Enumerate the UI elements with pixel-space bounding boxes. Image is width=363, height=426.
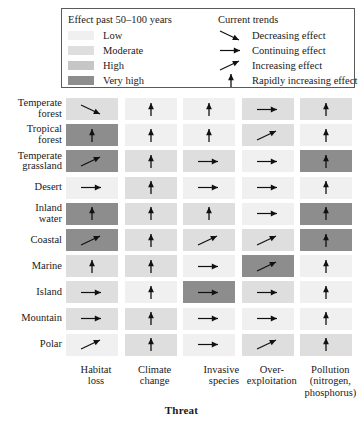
arrow-up-icon (138, 259, 164, 274)
arrow-up-icon (138, 311, 164, 326)
matrix-cell (242, 124, 294, 146)
legend-effect-row: Very high (68, 73, 218, 88)
matrix-row-cells (66, 150, 352, 172)
arrow-up-icon (138, 285, 164, 300)
row-label-line: Marine (0, 261, 62, 272)
matrix-row: Inlandwater (0, 201, 363, 227)
matrix-row-cells (66, 177, 352, 199)
arrow-up-icon (138, 180, 164, 195)
matrix-cell (242, 203, 294, 225)
arrow-up-right-icon (196, 233, 222, 248)
arrow-up-icon (196, 128, 222, 143)
arrow-right-icon (196, 259, 222, 274)
arrow-right-icon (196, 337, 222, 352)
legend-effect-label: Very high (103, 75, 144, 86)
matrix-cell (125, 203, 177, 225)
matrix-cell (66, 308, 118, 330)
arrow-up-icon (313, 311, 339, 326)
row-label-line: Desert (0, 182, 62, 193)
matrix-row-cells (66, 255, 352, 277)
arrow-up-icon (138, 102, 164, 117)
matrix-cell (66, 334, 118, 356)
matrix-cell (125, 334, 177, 356)
column-header-habitat-loss: Habitatloss (70, 364, 122, 398)
matrix-cell (66, 98, 118, 120)
matrix-cell (66, 229, 118, 251)
column-header-climate-change: Climatechange (129, 364, 181, 398)
matrix-cell (125, 255, 177, 277)
matrix-cell (183, 229, 235, 251)
arrow-down-right-icon (218, 29, 244, 42)
arrow-up-right-icon (79, 337, 105, 352)
legend-trends-title: Current trends (218, 14, 354, 26)
arrow-up-icon (138, 128, 164, 143)
arrow-right-icon (196, 180, 222, 195)
matrix-cell (125, 308, 177, 330)
matrix-row: Coastal (0, 227, 363, 253)
arrow-right-icon (196, 285, 222, 300)
column-header-line: species (187, 375, 239, 386)
column-header-line: change (129, 375, 181, 386)
legend-trend-label: Decreasing effect (252, 30, 326, 41)
matrix-cell (242, 98, 294, 120)
matrix-cell (125, 281, 177, 303)
row-label-inland-water: Inlandwater (0, 203, 66, 225)
legend-effect-row: Low (68, 28, 218, 43)
arrow-up-icon (138, 154, 164, 169)
arrow-up-right-icon (255, 233, 281, 248)
arrow-up-icon (313, 128, 339, 143)
matrix-cell (300, 124, 352, 146)
legend-effect-row: Moderate (68, 43, 218, 58)
matrix-cell (125, 229, 177, 251)
matrix-cell (183, 281, 235, 303)
matrix-row: Mountain (0, 306, 363, 332)
arrow-up-icon (79, 128, 105, 143)
matrix-cell (125, 150, 177, 172)
matrix-cell (242, 150, 294, 172)
arrow-right-icon (79, 285, 105, 300)
matrix-row-cells (66, 203, 352, 225)
matrix-cell (183, 334, 235, 356)
legend-trends-column: Current trends Decreasing effectContinui… (218, 14, 354, 88)
arrow-up-icon (218, 74, 244, 87)
matrix-cell (242, 334, 294, 356)
row-label-temperate-grassland: Temperategrassland (0, 151, 66, 173)
matrix-cell (300, 98, 352, 120)
matrix-row: Temperateforest (0, 96, 363, 122)
column-header-line: Habitat (70, 364, 122, 375)
arrow-up-right-icon (79, 233, 105, 248)
row-label-line: Coastal (0, 235, 62, 246)
matrix-row-cells (66, 308, 352, 330)
legend-effect-label: Moderate (103, 45, 143, 56)
matrix-cell (183, 255, 235, 277)
arrow-right-icon (218, 44, 244, 57)
legend-effect-row: High (68, 58, 218, 73)
column-header-over-exploitation: Over-exploitation (246, 364, 298, 398)
column-header-line: Invasive (187, 364, 239, 375)
matrix-row-cells (66, 124, 352, 146)
arrow-up-icon (138, 233, 164, 248)
arrow-right-icon (196, 311, 222, 326)
column-header-pollution-nitrogen-phosphorus-: Pollution(nitrogen,phosphorus) (304, 364, 356, 398)
matrix-row: Polar (0, 332, 363, 358)
column-header-line: Over- (246, 364, 298, 375)
row-label-mountain: Mountain (0, 313, 66, 324)
matrix-row: Temperategrassland (0, 148, 363, 174)
arrow-right-icon (255, 285, 281, 300)
matrix-cell (300, 255, 352, 277)
row-label-temperate-forest: Temperateforest (0, 98, 66, 120)
legend-panel: Effect past 50–100 years LowModerateHigh… (61, 8, 355, 88)
matrix-cell (300, 177, 352, 199)
matrix-cell (242, 177, 294, 199)
arrow-up-icon (79, 259, 105, 274)
legend-trend-label: Increasing effect (252, 60, 322, 71)
legend-trend-row: Decreasing effect (218, 28, 354, 43)
arrow-right-icon (79, 311, 105, 326)
legend-trend-label: Rapidly increasing effect (252, 75, 357, 86)
matrix-cell (300, 281, 352, 303)
matrix-row-cells (66, 281, 352, 303)
matrix-row-cells (66, 334, 352, 356)
arrow-right-icon (79, 180, 105, 195)
matrix-cell (183, 203, 235, 225)
legend-swatch (68, 61, 94, 70)
